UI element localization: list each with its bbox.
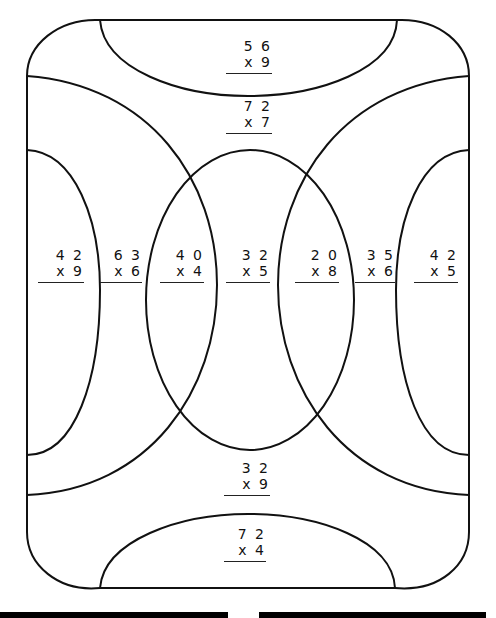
problem-left-lens: 4 0 x 4 xyxy=(160,247,204,283)
right-big-arc xyxy=(278,76,469,495)
left-big-arc xyxy=(27,76,217,495)
problem-right-band: 3 5 x 6 xyxy=(355,247,395,283)
problem-bottom-cap: 7 2 x 4 xyxy=(224,526,266,562)
problem-right-lens: 2 0 x 8 xyxy=(295,247,339,283)
right-inner-arc xyxy=(396,150,469,455)
problem-right-outer: 4 2 x 5 xyxy=(414,247,458,283)
problem-left-outer: 4 2 x 9 xyxy=(38,247,84,283)
problem-lower-band: 3 2 x 9 xyxy=(224,460,270,496)
footer-bar-left xyxy=(0,612,228,618)
problem-upper-band: 7 2 x 7 xyxy=(226,98,272,134)
center-ellipse xyxy=(146,150,354,450)
left-inner-arc xyxy=(27,150,100,455)
problem-top-cap: 5 6 x 9 xyxy=(226,38,272,74)
problem-left-band: 6 3 x 6 xyxy=(100,247,142,283)
footer-bar-right xyxy=(259,612,486,618)
problem-center: 3 2 x 5 xyxy=(226,247,270,283)
